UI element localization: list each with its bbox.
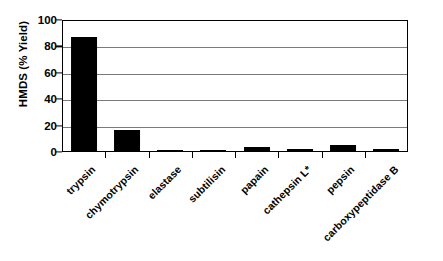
plot-area bbox=[62, 20, 408, 152]
y-tick-label: 100 bbox=[17, 14, 57, 26]
x-tick-mark bbox=[322, 152, 323, 158]
gridline bbox=[63, 74, 407, 75]
gridline bbox=[63, 47, 407, 48]
x-tick-mark bbox=[192, 152, 193, 158]
x-tick-mark bbox=[149, 152, 150, 158]
x-tick-mark bbox=[235, 152, 236, 158]
y-tick-label: 20 bbox=[17, 120, 57, 132]
x-tick-label: papain bbox=[237, 163, 270, 196]
gridline bbox=[63, 127, 407, 128]
bar-chart: HMDS (% Yield) 100806040200 trypsinchymo… bbox=[0, 0, 443, 261]
x-tick-label: trypsin bbox=[64, 163, 98, 197]
x-tick-mark bbox=[105, 152, 106, 158]
x-tick-label: subtilisin bbox=[185, 163, 227, 205]
y-tick-label: 80 bbox=[17, 40, 57, 52]
x-tick-label: pepsin bbox=[324, 163, 357, 196]
y-tick-label: 60 bbox=[17, 67, 57, 79]
x-tick-mark bbox=[365, 152, 366, 158]
x-tick-mark bbox=[278, 152, 279, 158]
x-tick-label: elastase bbox=[145, 163, 183, 201]
y-tick-label: 40 bbox=[17, 93, 57, 105]
y-tick-label: 0 bbox=[17, 146, 57, 158]
gridline bbox=[63, 100, 407, 101]
x-tick-label: carboxypeptidase B bbox=[320, 163, 400, 243]
